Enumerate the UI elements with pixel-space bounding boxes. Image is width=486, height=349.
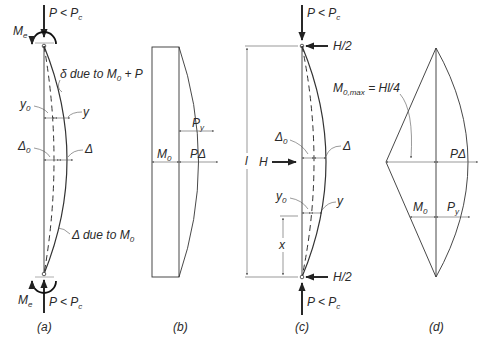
bottom-pin	[42, 272, 46, 276]
panel-b: Py M0 PΔ (b)	[152, 47, 218, 334]
Delta-label: Δ	[342, 139, 351, 153]
caption-d: (d)	[429, 320, 444, 334]
top-load-label: P < Pc	[49, 6, 82, 22]
lateral-load-label: H	[259, 155, 268, 169]
bottom-reaction-label: H/2	[333, 270, 352, 284]
y0-leader	[34, 106, 48, 113]
Py-label: Py	[192, 116, 205, 132]
top-reaction-label: H/2	[333, 39, 352, 53]
Delta0-label: Δ0	[17, 139, 31, 155]
y-leader	[322, 202, 336, 210]
caption-a: (a)	[37, 320, 52, 334]
y0-leader	[290, 198, 308, 209]
Delta-leader	[326, 146, 341, 156]
first-order-deflection	[302, 46, 314, 277]
bottom-moment-label: Me	[18, 293, 33, 309]
PDelta-label: PΔ	[450, 147, 466, 161]
top-load-label: P < Pc	[307, 6, 340, 22]
length-label: l	[245, 154, 248, 168]
PDelta-moment-curve	[436, 48, 468, 277]
total-deflection	[302, 46, 326, 277]
Delta-label: Δ	[84, 142, 93, 156]
Delta-due-to-M0-label: Δ due to M0	[71, 228, 135, 244]
delta-label: δ due to M0 + P	[60, 67, 143, 83]
caption-b: (b)	[173, 320, 188, 334]
M0max-label: M0,max = Hl/4	[333, 81, 400, 97]
bottom-load-label: P < Pc	[49, 295, 82, 311]
Delta-leader	[68, 150, 83, 157]
Delta-M0-leader	[58, 228, 70, 234]
Delta0-leader	[34, 148, 50, 157]
M0-label: M0	[157, 147, 172, 163]
panel-d: M0,max = Hl/4 PΔ M0 Py (d)	[333, 48, 478, 334]
Py-label: Py	[447, 200, 460, 216]
top-moment-label: Me	[13, 24, 28, 40]
y0-label: y0	[19, 97, 31, 113]
caption-c: (c)	[295, 320, 309, 334]
PDelta-label: PΔ	[190, 147, 206, 161]
beam-column-diagram: P < Pc Me δ due to M0 + P y0 y Δ0 Δ Δ du…	[0, 0, 486, 349]
x-label: x	[278, 238, 286, 252]
y-leader	[68, 112, 82, 117]
bottom-pin	[300, 275, 304, 279]
y-label: y	[82, 105, 90, 119]
bottom-load-label: P < Pc	[307, 295, 340, 311]
y0-label: y0	[275, 189, 287, 205]
Delta0-label: Δ0	[274, 130, 288, 146]
M0-label: M0	[413, 200, 428, 216]
panel-c: P < Pc H/2 l H Δ0 Δ y0 y x	[240, 5, 352, 334]
Delta0-leader	[290, 140, 308, 154]
y-label: y	[336, 194, 344, 208]
panel-a: P < Pc Me δ due to M0 + P y0 y Δ0 Δ Δ du…	[13, 5, 143, 334]
